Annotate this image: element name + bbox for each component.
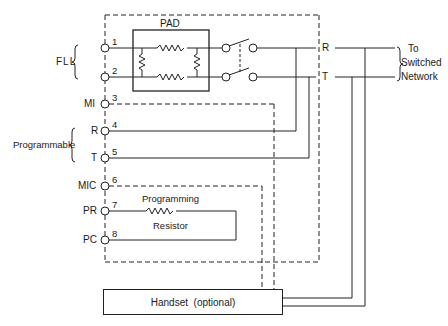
outer-dashed-enclosure bbox=[105, 15, 319, 262]
pad-resistor-left bbox=[139, 48, 145, 77]
line-r-label: R bbox=[322, 42, 329, 53]
fll-label: FLL bbox=[56, 56, 76, 67]
terminal-mi-label: MI bbox=[84, 98, 95, 109]
terminal-2-number: 2 bbox=[112, 65, 117, 76]
terminal-4-number: 4 bbox=[112, 119, 117, 130]
pad-resistor-bottom bbox=[157, 74, 184, 80]
pad-label: PAD bbox=[160, 18, 180, 29]
network-label-line3: Network bbox=[401, 71, 438, 82]
network-label-line1: To bbox=[408, 43, 419, 54]
terminal-3-number: 3 bbox=[112, 92, 117, 103]
ganged-switch bbox=[222, 39, 257, 81]
programming-resistor bbox=[146, 208, 173, 214]
programming-resistor-label-line1: Programming bbox=[142, 193, 199, 204]
programmable-label: Programmable bbox=[13, 139, 75, 150]
terminal-5-number: 5 bbox=[112, 146, 117, 157]
pad-resistor-right bbox=[194, 48, 200, 77]
terminal-pc-label: PC bbox=[83, 234, 97, 245]
handset-label: Handset (optional) bbox=[151, 297, 236, 308]
terminal-1-number: 1 bbox=[112, 36, 117, 47]
line-t-label: T bbox=[322, 71, 328, 82]
terminal-8-number: 8 bbox=[112, 228, 117, 239]
terminal-6-number: 6 bbox=[112, 174, 117, 185]
terminal-7-number: 7 bbox=[112, 199, 117, 210]
terminal-t-label: T bbox=[91, 152, 97, 163]
network-label-line2: Switched bbox=[401, 57, 442, 68]
pad-resistor-top bbox=[157, 45, 184, 51]
handset-box: Handset (optional) bbox=[103, 289, 283, 315]
circuit-diagram bbox=[0, 0, 448, 326]
terminal-mic-label: MIC bbox=[78, 180, 96, 191]
terminal-r-label: R bbox=[91, 125, 98, 136]
programming-resistor-label-line2: Resistor bbox=[153, 220, 188, 231]
terminal-pr-label: PR bbox=[83, 205, 97, 216]
